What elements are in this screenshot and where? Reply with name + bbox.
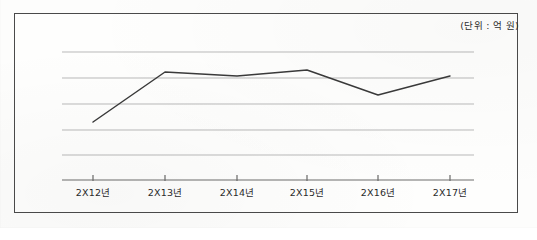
x-tick-label-3: 2X14년 [220,185,255,199]
x-tick-label-1: 2X12년 [76,185,111,199]
x-tick-label-4: 2X15년 [290,185,325,199]
x-tick-label-2: 2X13년 [148,185,183,199]
x-tick-label-5: 2X16년 [361,185,396,199]
gridlines-group [62,52,474,155]
x-tick-label-6: 2X17년 [433,185,468,199]
